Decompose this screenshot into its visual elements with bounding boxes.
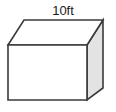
cube-front-face <box>8 45 87 100</box>
dimension-label-top-edge: 10ft <box>52 3 74 18</box>
cube-drawing: 10ft <box>0 0 116 112</box>
cube-figure: 10ft <box>0 0 116 112</box>
cube-top-face <box>8 20 103 45</box>
